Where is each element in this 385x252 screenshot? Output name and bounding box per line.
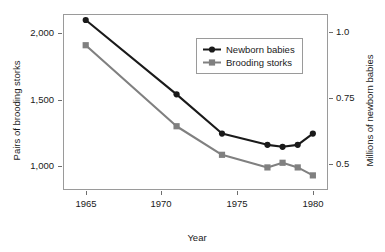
data-point-square: [219, 152, 225, 158]
tick-mark: [86, 191, 87, 195]
y-tick-label-right: 0.5: [336, 158, 376, 169]
y-tick-label-left: 1,500: [14, 94, 54, 105]
data-point-square: [264, 164, 270, 170]
data-point-circle: [83, 17, 89, 23]
data-point-circle: [295, 142, 301, 148]
data-point-square: [173, 123, 179, 129]
legend-key-circle-icon: [202, 44, 222, 55]
x-tick-label: 1965: [66, 198, 106, 209]
legend-key-square-icon: [202, 57, 222, 68]
y-tick-label-left: 2,000: [14, 27, 54, 38]
tick-mark: [329, 98, 333, 99]
legend-label-newborn-babies: Newborn babies: [226, 44, 295, 55]
y-axis-left-title: Pairs of brooding storks: [11, 46, 22, 176]
x-tick-label: 1975: [217, 198, 257, 209]
y-tick-label-right: 0.75: [336, 92, 376, 103]
legend-label-brooding-storks: Brooding storks: [226, 57, 292, 68]
tick-mark: [237, 191, 238, 195]
data-point-circle: [173, 91, 179, 97]
y-tick-label-left: 1,000: [14, 160, 54, 171]
data-point-circle: [264, 142, 270, 148]
tick-mark: [329, 32, 333, 33]
x-tick-label: 1970: [141, 198, 181, 209]
tick-mark: [161, 191, 162, 195]
tick-mark: [329, 164, 333, 165]
x-axis-title: Year: [82, 232, 312, 243]
data-point-square: [295, 164, 301, 170]
tick-mark: [58, 33, 62, 34]
tick-mark: [58, 100, 62, 101]
tick-mark: [58, 166, 62, 167]
series-newborn-babies: [83, 17, 316, 150]
data-point-circle: [310, 130, 316, 136]
tick-mark: [313, 191, 314, 195]
y-tick-label-right: 1.0: [336, 26, 376, 37]
data-point-circle: [279, 144, 285, 150]
data-point-square: [279, 160, 285, 166]
data-point-square: [310, 172, 316, 178]
data-point-square: [83, 42, 89, 48]
x-tick-label: 1980: [293, 198, 333, 209]
legend-item-newborn-babies: Newborn babies: [202, 43, 295, 56]
chart-legend: Newborn babies Brooding storks: [196, 38, 303, 74]
legend-item-brooding-storks: Brooding storks: [202, 56, 295, 69]
chart-figure: Pairs of brooding storks Millions of new…: [0, 0, 385, 252]
data-point-circle: [219, 130, 225, 136]
